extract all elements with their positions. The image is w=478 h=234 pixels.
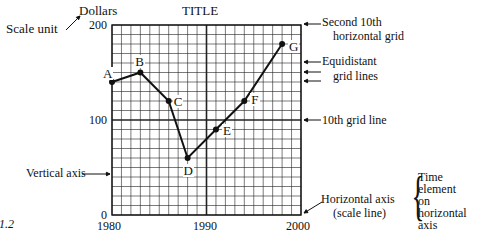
chart-title: TITLE [182,4,218,17]
annotation-second-10th-line2: horizontal grid [333,30,404,43]
scale-unit-label: Scale unit [6,22,58,35]
figure-label: .1.2 [0,218,14,231]
annotation-equidistant-line2: grid lines [333,70,378,83]
x-tick-2000: 2000 [286,220,310,233]
arrowhead-icon [304,70,308,73]
point-label-e: E [222,124,232,137]
arrowhead-icon [304,210,308,213]
point-label-b: B [134,55,145,68]
line-chart [0,0,478,234]
x-tick-1990: 1990 [193,220,217,233]
data-point-f [241,98,247,104]
point-label-f: F [250,93,259,106]
point-label-a: A [102,67,113,80]
annotation-equidistant-line1: Equidistant [322,55,377,68]
annotation-vertical-axis: Vertical axis [26,167,86,180]
arrowhead-icon [304,118,308,121]
annotation-horizontal-axis-line2: (scale line) [333,207,386,220]
arrowhead-icon [304,60,308,63]
data-point-b [137,70,143,76]
arrowhead-icon [304,79,308,82]
y-tick-100: 100 [89,114,107,127]
data-point-d [185,155,191,161]
data-point-g [279,41,285,47]
time-bracket-icon: { [411,169,424,223]
point-label-g: G [288,40,299,53]
point-label-d: D [183,164,194,177]
annotation-second-10th-line1: Second 10th [322,16,382,29]
arrowhead-icon [106,172,110,175]
arrowhead-icon [304,22,308,25]
annotation-horizontal-axis-line1: Horizontal axis [321,193,395,206]
y-tick-200: 200 [89,19,107,32]
annotation-10th-grid: 10th grid line [322,114,387,127]
y-unit-label: Dollars [79,4,117,17]
x-tick-1980: 1980 [97,220,121,233]
point-label-c: C [173,95,184,108]
data-point-e [213,127,219,133]
data-point-c [166,98,172,104]
